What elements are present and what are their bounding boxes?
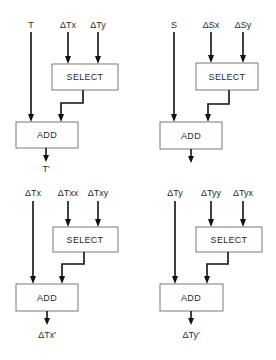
arrowhead-icon (172, 276, 178, 284)
output-label: ΔTx′ (38, 330, 56, 340)
arrowhead-icon (204, 276, 210, 284)
select-to-add-arrow (62, 252, 84, 278)
select-to-add-arrow (208, 90, 229, 116)
input-main-label: ΔTy (167, 188, 183, 198)
select-to-add-arrow (61, 90, 83, 116)
panel-s-update: S ΔSx ΔSy SELECT ADD (160, 20, 258, 163)
input-select-label-1: ΔSx (203, 20, 220, 30)
add-block-label: ADD (37, 293, 57, 303)
input-select-label-2: ΔSy (235, 20, 252, 30)
add-block-label: ADD (181, 131, 201, 141)
input-select-label-2: ΔTy (90, 20, 106, 30)
arrowhead-icon (208, 55, 214, 63)
add-block-label: ADD (181, 293, 201, 303)
arrowhead-icon (171, 114, 177, 122)
panel-dty-update: ΔTy ΔTyy ΔTyx SELECT ADD ΔTy′ (160, 188, 262, 340)
arrowhead-icon (30, 276, 36, 284)
arrowhead-icon (44, 318, 50, 325)
arrowhead-icon (59, 276, 65, 284)
select-block-label: SELECT (67, 235, 104, 245)
input-select-label-2: ΔTyx (233, 188, 254, 198)
arrowhead-icon (240, 55, 246, 63)
add-block-label: ADD (37, 130, 57, 140)
arrowhead-icon (208, 219, 214, 227)
arrowhead-icon (28, 114, 34, 122)
arrowhead-icon (95, 56, 101, 64)
input-select-label-1: ΔTyy (201, 188, 222, 198)
panel-t-update: T ΔTx ΔTy SELECT ADD T′ (16, 20, 118, 174)
input-main-label: ΔTx (25, 188, 42, 198)
select-block-label: SELECT (211, 235, 248, 245)
arrowhead-icon (205, 114, 211, 122)
block-diagram: T ΔTx ΔTy SELECT ADD T′ S ΔSx ΔSy SELECT (0, 0, 276, 360)
arrowhead-icon (240, 219, 246, 227)
arrowhead-icon (43, 155, 49, 162)
arrowhead-icon (58, 114, 64, 122)
arrowhead-icon (188, 156, 194, 163)
output-label: T′ (42, 164, 49, 174)
select-block-label: SELECT (209, 72, 246, 82)
input-select-label-1: ΔTxx (58, 188, 79, 198)
input-select-label-2: ΔTxy (88, 188, 109, 198)
input-main-label: S (171, 20, 177, 30)
arrowhead-icon (95, 219, 101, 227)
output-label: ΔTy′ (182, 330, 200, 340)
input-main-label: T (28, 20, 34, 30)
arrowhead-icon (188, 318, 194, 325)
select-block-label: SELECT (67, 72, 104, 82)
arrowhead-icon (65, 219, 71, 227)
input-select-label-1: ΔTx (60, 20, 77, 30)
select-to-add-arrow (207, 252, 228, 278)
arrowhead-icon (65, 56, 71, 64)
panel-dtx-update: ΔTx ΔTxx ΔTxy SELECT ADD ΔTx′ (16, 188, 118, 340)
